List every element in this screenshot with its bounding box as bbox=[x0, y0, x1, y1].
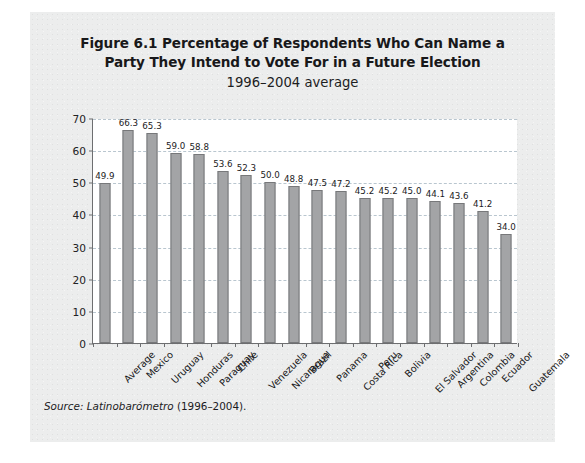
bar[interactable] bbox=[501, 234, 512, 343]
bar-group: 43.6 bbox=[447, 119, 471, 343]
bar[interactable] bbox=[477, 211, 488, 343]
bar-value-label: 47.2 bbox=[331, 179, 350, 189]
y-tick-label: 30 bbox=[73, 242, 86, 254]
x-tick-mark bbox=[140, 343, 141, 347]
bar[interactable] bbox=[335, 191, 346, 343]
bar-value-label: 48.8 bbox=[284, 174, 303, 184]
bar[interactable] bbox=[359, 198, 370, 343]
x-tick-mark bbox=[400, 343, 401, 347]
bar[interactable] bbox=[312, 190, 323, 343]
bar[interactable] bbox=[430, 201, 441, 343]
x-tick-label: Panama bbox=[334, 349, 369, 384]
bar-value-label: 66.3 bbox=[119, 118, 138, 128]
bar-value-label: 65.3 bbox=[142, 121, 161, 131]
bar-group: 66.3 bbox=[117, 119, 141, 343]
bar[interactable] bbox=[241, 175, 252, 343]
bar-group: 44.1 bbox=[424, 119, 448, 343]
y-tick-label: 50 bbox=[73, 177, 86, 189]
bar-value-label: 43.6 bbox=[449, 191, 468, 201]
bar-value-label: 58.8 bbox=[190, 142, 209, 152]
bar-value-label: 45.2 bbox=[355, 186, 374, 196]
x-tick-mark bbox=[353, 343, 354, 347]
x-tick-label: Bolivia bbox=[403, 349, 433, 379]
source-period: (1996–2004). bbox=[177, 400, 247, 412]
bar-value-label: 44.1 bbox=[426, 189, 445, 199]
bar-group: 45.2 bbox=[376, 119, 400, 343]
page-title-line-2: Party They Intend to Vote For in a Futur… bbox=[30, 53, 555, 72]
bar[interactable] bbox=[170, 153, 181, 343]
figure-page: Figure 6.1 Percentage of Respondents Who… bbox=[30, 12, 555, 442]
x-tick-mark bbox=[424, 343, 425, 347]
bar-group: 65.3 bbox=[140, 119, 164, 343]
y-tick-label: 10 bbox=[73, 306, 86, 318]
x-tick-mark bbox=[471, 343, 472, 347]
bar-value-label: 47.5 bbox=[308, 178, 327, 188]
bar[interactable] bbox=[288, 186, 299, 343]
bar[interactable] bbox=[217, 171, 228, 343]
bar-group: 47.2 bbox=[329, 119, 353, 343]
bar-group: 49.9 bbox=[93, 119, 117, 343]
y-tick-label: 20 bbox=[73, 274, 86, 286]
bar-group: 48.8 bbox=[282, 119, 306, 343]
bar[interactable] bbox=[194, 154, 205, 343]
bar-group: 53.6 bbox=[211, 119, 235, 343]
bar[interactable] bbox=[406, 198, 417, 343]
x-tick-mark bbox=[187, 343, 188, 347]
bar-series: 49.966.365.359.058.853.652.350.048.847.5… bbox=[93, 119, 517, 343]
y-tick-label: 0 bbox=[79, 338, 86, 350]
x-tick-mark bbox=[447, 343, 448, 347]
bar-group: 58.8 bbox=[187, 119, 211, 343]
x-tick-mark bbox=[235, 343, 236, 347]
bar[interactable] bbox=[453, 203, 464, 343]
x-tick-label: Brazil bbox=[307, 349, 334, 376]
x-tick-mark bbox=[117, 343, 118, 347]
x-tick-mark bbox=[518, 343, 519, 347]
bar-group: 59.0 bbox=[164, 119, 188, 343]
x-tick-mark bbox=[282, 343, 283, 347]
bar[interactable] bbox=[147, 133, 158, 343]
source-note: Source: Latinobarómetro (1996–2004). bbox=[44, 400, 246, 412]
x-tick-mark bbox=[93, 343, 94, 347]
bar[interactable] bbox=[123, 130, 134, 343]
source-label: Source: bbox=[44, 400, 83, 412]
bar-group: 45.0 bbox=[400, 119, 424, 343]
bar-value-label: 34.0 bbox=[497, 222, 516, 232]
x-tick-mark bbox=[494, 343, 495, 347]
figure-title-block: Figure 6.1 Percentage of Respondents Who… bbox=[30, 34, 555, 93]
bar-value-label: 45.0 bbox=[402, 186, 421, 196]
bar-group: 41.2 bbox=[471, 119, 495, 343]
x-tick-mark bbox=[306, 343, 307, 347]
x-tick-mark bbox=[329, 343, 330, 347]
bar-value-label: 52.3 bbox=[237, 163, 256, 173]
bar[interactable] bbox=[265, 182, 276, 343]
bar-group: 34.0 bbox=[494, 119, 518, 343]
bar-value-label: 49.9 bbox=[95, 171, 114, 181]
chart-plot-area: 010203040506070 49.966.365.359.058.853.6… bbox=[92, 119, 517, 344]
bar[interactable] bbox=[383, 198, 394, 343]
bar-value-label: 50.0 bbox=[260, 170, 279, 180]
x-tick-label: Chile bbox=[235, 349, 260, 374]
x-tick-mark bbox=[258, 343, 259, 347]
x-tick-mark bbox=[164, 343, 165, 347]
y-tick-label: 70 bbox=[73, 113, 86, 125]
bar-group: 47.5 bbox=[306, 119, 330, 343]
y-tick-label: 40 bbox=[73, 209, 86, 221]
bar-group: 52.3 bbox=[235, 119, 259, 343]
bar-value-label: 45.2 bbox=[378, 186, 397, 196]
chart-plot-inner: 010203040506070 49.966.365.359.058.853.6… bbox=[93, 119, 517, 343]
x-tick-mark bbox=[376, 343, 377, 347]
bar-value-label: 41.2 bbox=[473, 199, 492, 209]
bar-value-label: 59.0 bbox=[166, 141, 185, 151]
bar-group: 50.0 bbox=[258, 119, 282, 343]
bar-value-label: 53.6 bbox=[213, 159, 232, 169]
page-title-line-1: Figure 6.1 Percentage of Respondents Who… bbox=[30, 34, 555, 53]
source-name: Latinobarómetro bbox=[87, 400, 174, 412]
bar-group: 45.2 bbox=[353, 119, 377, 343]
x-tick-mark bbox=[211, 343, 212, 347]
bar[interactable] bbox=[99, 183, 110, 343]
y-tick-label: 60 bbox=[73, 145, 86, 157]
chart-subtitle: 1996–2004 average bbox=[30, 73, 555, 93]
